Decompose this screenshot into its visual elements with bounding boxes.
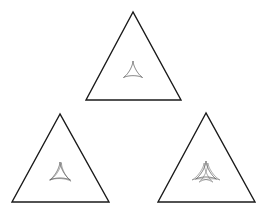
triangle-outline — [86, 12, 181, 100]
triangle-outline — [158, 113, 255, 202]
triangle-outline — [12, 114, 109, 202]
triangle-bottom-left — [12, 114, 109, 202]
deltoid-curve — [50, 163, 71, 182]
deltoid-curve — [123, 61, 142, 78]
deltoid-curve — [196, 161, 217, 179]
diagram-canvas — [0, 0, 268, 212]
triangle-bottom-right — [158, 113, 255, 202]
triangle-top — [86, 12, 181, 100]
